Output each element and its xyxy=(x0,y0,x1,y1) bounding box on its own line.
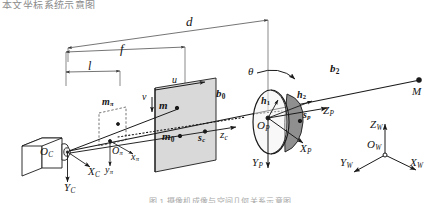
label-normalized-point-mpi: mπ xyxy=(102,97,114,108)
label-angle-theta: θ xyxy=(248,66,253,77)
camera-axes xyxy=(68,152,91,182)
label-object-axis-z: ZP xyxy=(323,105,334,118)
figure-caption: 图 1 摄像机成像与空间几何关系示意图 xyxy=(105,195,335,203)
label-principal-point-sc: sc xyxy=(198,133,205,144)
label-image-axis-v: v xyxy=(142,92,146,102)
dimension-line-l xyxy=(66,71,120,86)
label-image-axis-u: u xyxy=(172,75,177,85)
label-camera-axis-y: YC xyxy=(64,182,75,195)
label-dimension-l: l xyxy=(88,60,91,72)
label-vector-h1: h1 xyxy=(261,96,270,107)
label-world-origin: OW xyxy=(367,139,381,152)
label-camera-axis-x: XC xyxy=(88,166,100,179)
label-point-sp: sp xyxy=(303,110,311,121)
label-dimension-d: d xyxy=(186,15,193,28)
label-world-axis-x: XW xyxy=(410,157,423,170)
label-object-origin: OP xyxy=(257,120,270,133)
figure-canvas: 本文坐标系统示意图 xyxy=(0,0,430,203)
label-ray-b0: b0 xyxy=(216,88,225,101)
label-normalized-axis-x: xπ xyxy=(131,152,139,163)
label-dimension-f: f xyxy=(120,42,124,55)
label-world-axis-z: ZW xyxy=(370,119,382,132)
world-frame-axes xyxy=(354,124,416,172)
diagram-vector-graphics xyxy=(0,0,430,203)
label-world-axis-y: YW xyxy=(340,157,352,170)
label-vector-h2: h2 xyxy=(297,90,306,101)
label-scene-point-M: M xyxy=(412,86,421,97)
image-plane xyxy=(155,78,216,172)
label-camera-origin: OC xyxy=(40,146,53,159)
label-object-axis-x: XP xyxy=(300,143,311,156)
label-image-point-m0: m0 xyxy=(162,131,174,144)
label-object-axis-y: YP xyxy=(252,157,263,170)
angle-theta-arc xyxy=(257,70,295,79)
label-ray-b2: b2 xyxy=(330,63,339,76)
label-image-point-m: m xyxy=(159,100,168,111)
label-normalized-axis-y: yπ xyxy=(105,165,113,176)
label-normalized-origin: Oπ xyxy=(112,146,123,157)
label-camera-axis-z: zc xyxy=(220,129,228,142)
